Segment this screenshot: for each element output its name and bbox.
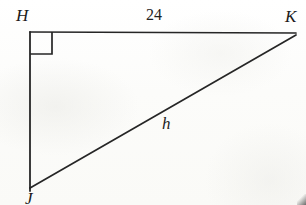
segment-JK xyxy=(30,35,296,188)
vertex-label-K: K xyxy=(285,8,296,25)
vertex-label-H: H xyxy=(16,7,28,24)
geometry-diagram-canvas: H K J 24 h xyxy=(0,0,306,205)
segment-HK xyxy=(30,32,296,33)
right-angle-marker-icon xyxy=(30,32,52,54)
side-length-label-HK: 24 xyxy=(146,7,162,23)
vertex-label-J: J xyxy=(25,190,33,205)
side-length-label-JK: h xyxy=(162,115,171,132)
triangle-figure xyxy=(0,0,306,205)
